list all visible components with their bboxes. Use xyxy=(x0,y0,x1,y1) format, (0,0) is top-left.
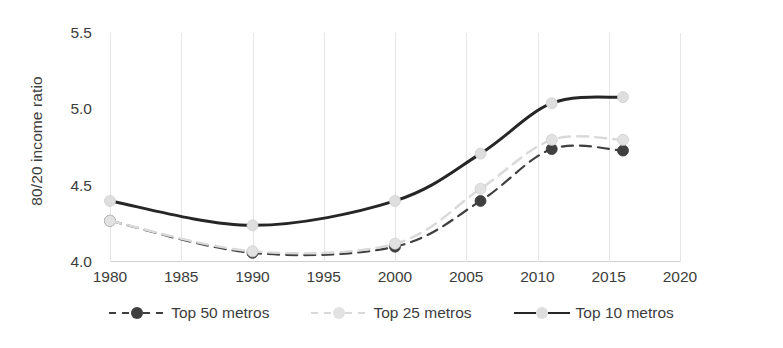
legend-line-segment xyxy=(345,312,367,315)
gridline-vertical xyxy=(680,33,681,262)
plot-area xyxy=(110,33,680,262)
legend-line-segment xyxy=(143,312,165,315)
gridline-vertical xyxy=(181,33,182,262)
legend-marker-dot xyxy=(333,307,345,319)
gridline-vertical xyxy=(609,33,610,262)
x-axis-tick-label: 2015 xyxy=(569,268,649,286)
legend-label: Top 10 metros xyxy=(576,305,674,321)
legend-item-2[interactable]: Top 25 metros xyxy=(311,305,471,321)
x-axis-tick-label: 2010 xyxy=(498,268,578,286)
x-axis-tick-label: 2000 xyxy=(355,268,435,286)
x-axis-tick-label: 1995 xyxy=(284,268,364,286)
legend-item-3[interactable]: Top 10 metros xyxy=(514,305,674,321)
y-axis-tick-label: 4.5 xyxy=(32,177,92,195)
legend-line-segment xyxy=(311,312,333,315)
y-axis-tick-label: 5.5 xyxy=(32,24,92,42)
legend-label: Top 50 metros xyxy=(171,305,269,321)
legend-line-segment xyxy=(548,312,570,315)
y-axis-tick-label: 5.0 xyxy=(32,100,92,118)
x-axis-tick-label: 2020 xyxy=(640,268,720,286)
gridline-vertical xyxy=(324,33,325,262)
x-axis-tick-label: 1985 xyxy=(141,268,221,286)
gridline-vertical xyxy=(253,33,254,262)
gridline-vertical xyxy=(110,33,111,262)
gridline-vertical xyxy=(538,33,539,262)
legend-item-1[interactable]: Top 50 metros xyxy=(109,305,269,321)
gridline-vertical xyxy=(466,33,467,262)
chart-legend: Top 50 metrosTop 25 metrosTop 10 metros xyxy=(0,305,783,321)
x-axis-tick-label: 1990 xyxy=(213,268,293,286)
y-axis-title: 80/20 income ratio xyxy=(28,16,46,266)
gridline-vertical xyxy=(395,33,396,262)
legend-line-segment xyxy=(109,312,131,315)
legend-label: Top 25 metros xyxy=(373,305,471,321)
legend-swatch xyxy=(109,306,165,320)
legend-marker-dot xyxy=(131,307,143,319)
x-axis-tick-label: 2005 xyxy=(426,268,506,286)
legend-line-segment xyxy=(514,312,536,315)
legend-swatch xyxy=(311,306,367,320)
legend-swatch xyxy=(514,306,570,320)
legend-marker-dot xyxy=(536,307,548,319)
income-ratio-line-chart: 80/20 income ratio 4.04.55.05.5 19801985… xyxy=(0,0,783,348)
x-axis-tick-label: 1980 xyxy=(70,268,150,286)
